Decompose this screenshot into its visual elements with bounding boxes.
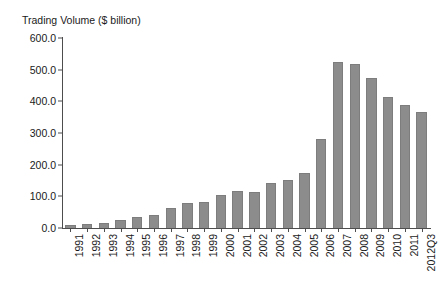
x-tick-mark bbox=[321, 228, 322, 232]
x-tick-mark bbox=[104, 228, 105, 232]
x-label-wrap: 2006 bbox=[325, 234, 336, 257]
x-tick-mark bbox=[405, 228, 406, 232]
x-label-wrap: 2001 bbox=[242, 234, 253, 257]
bars-layer bbox=[62, 38, 430, 228]
x-tick-mark bbox=[254, 228, 255, 232]
bar bbox=[182, 203, 192, 228]
bar bbox=[266, 183, 276, 228]
x-label-wrap: 1995 bbox=[141, 234, 152, 257]
bar-chart: Trading Volume ($ billion) 600.0500.0400… bbox=[0, 0, 443, 284]
x-label-wrap: 1993 bbox=[108, 234, 119, 257]
x-label-wrap: 2010 bbox=[392, 234, 403, 257]
x-tick-mark bbox=[154, 228, 155, 232]
x-tick-mark bbox=[187, 228, 188, 232]
plot-area: 600.0500.0400.0300.0200.0100.00.0 bbox=[62, 38, 430, 228]
x-tick-label: 1998 bbox=[191, 234, 202, 257]
bar bbox=[149, 215, 159, 228]
x-tick-mark bbox=[221, 228, 222, 232]
x-label-wrap: 2003 bbox=[275, 234, 286, 257]
x-label-wrap: 1997 bbox=[175, 234, 186, 257]
x-tick-mark bbox=[271, 228, 272, 232]
x-tick-mark bbox=[238, 228, 239, 232]
y-tick-label: 100.0 bbox=[30, 191, 56, 202]
x-tick-label: 1993 bbox=[108, 234, 119, 257]
y-tick-label: 200.0 bbox=[30, 159, 56, 170]
x-tick-label: 2010 bbox=[392, 234, 403, 257]
x-tick-label: 2001 bbox=[242, 234, 253, 257]
x-tick-mark bbox=[388, 228, 389, 232]
x-tick-label: 1992 bbox=[91, 234, 102, 257]
x-tick-mark bbox=[338, 228, 339, 232]
x-tick-label: 2012Q3 bbox=[426, 234, 437, 271]
x-label-wrap: 2011 bbox=[409, 234, 420, 257]
bar bbox=[299, 173, 309, 228]
x-tick-label: 1997 bbox=[175, 234, 186, 257]
x-axis-ticks bbox=[0, 228, 443, 233]
x-label-wrap: 2005 bbox=[309, 234, 320, 257]
bar bbox=[166, 208, 176, 228]
bar bbox=[350, 64, 360, 228]
bar bbox=[132, 217, 142, 228]
x-tick-label: 2008 bbox=[359, 234, 370, 257]
x-label-wrap: 1999 bbox=[208, 234, 219, 257]
x-label-wrap: 2002 bbox=[258, 234, 269, 257]
chart-title: Trading Volume ($ billion) bbox=[22, 14, 141, 26]
x-tick-mark bbox=[305, 228, 306, 232]
bar bbox=[333, 62, 343, 228]
bar bbox=[400, 105, 410, 228]
x-label-wrap: 1992 bbox=[91, 234, 102, 257]
bar bbox=[249, 192, 259, 228]
bar bbox=[115, 220, 125, 228]
x-label-wrap: 2008 bbox=[359, 234, 370, 257]
x-tick-mark bbox=[371, 228, 372, 232]
x-tick-label: 2003 bbox=[275, 234, 286, 257]
x-tick-mark bbox=[171, 228, 172, 232]
x-label-wrap: 2000 bbox=[225, 234, 236, 257]
x-tick-mark bbox=[137, 228, 138, 232]
x-label-wrap: 1991 bbox=[74, 234, 85, 257]
x-tick-label: 1994 bbox=[125, 234, 136, 257]
bar bbox=[366, 78, 376, 228]
x-tick-label: 2004 bbox=[292, 234, 303, 257]
x-tick-label: 2000 bbox=[225, 234, 236, 257]
x-tick-mark bbox=[288, 228, 289, 232]
x-tick-label: 2006 bbox=[325, 234, 336, 257]
bar bbox=[383, 97, 393, 228]
x-tick-label: 1996 bbox=[158, 234, 169, 257]
x-tick-mark bbox=[204, 228, 205, 232]
bar bbox=[199, 202, 209, 228]
bar bbox=[216, 195, 226, 228]
x-tick-label: 2005 bbox=[309, 234, 320, 257]
x-label-wrap: 2009 bbox=[375, 234, 386, 257]
x-label-wrap: 1996 bbox=[158, 234, 169, 257]
x-tick-label: 2002 bbox=[258, 234, 269, 257]
bar bbox=[232, 191, 242, 228]
x-tick-mark bbox=[70, 228, 71, 232]
bar bbox=[283, 180, 293, 228]
x-axis-labels: 1991199219931994199519961997199819992000… bbox=[0, 234, 443, 284]
x-label-wrap: 1994 bbox=[125, 234, 136, 257]
x-label-wrap: 2004 bbox=[292, 234, 303, 257]
x-tick-label: 1991 bbox=[74, 234, 85, 257]
x-tick-label: 1999 bbox=[208, 234, 219, 257]
y-tick-label: 400.0 bbox=[30, 96, 56, 107]
x-tick-label: 2007 bbox=[342, 234, 353, 257]
x-label-wrap: 2007 bbox=[342, 234, 353, 257]
bar bbox=[316, 139, 326, 228]
x-label-wrap: 1998 bbox=[191, 234, 202, 257]
y-tick-label: 500.0 bbox=[30, 64, 56, 75]
x-tick-mark bbox=[355, 228, 356, 232]
y-tick-label: 600.0 bbox=[30, 33, 56, 44]
x-tick-label: 2009 bbox=[375, 234, 386, 257]
x-label-wrap: 2012Q3 bbox=[426, 234, 437, 271]
x-tick-mark bbox=[422, 228, 423, 232]
x-tick-label: 1995 bbox=[141, 234, 152, 257]
x-tick-label: 2011 bbox=[409, 234, 420, 257]
y-tick-label: 300.0 bbox=[30, 128, 56, 139]
x-tick-mark bbox=[121, 228, 122, 232]
x-tick-mark bbox=[87, 228, 88, 232]
bar bbox=[416, 112, 426, 228]
